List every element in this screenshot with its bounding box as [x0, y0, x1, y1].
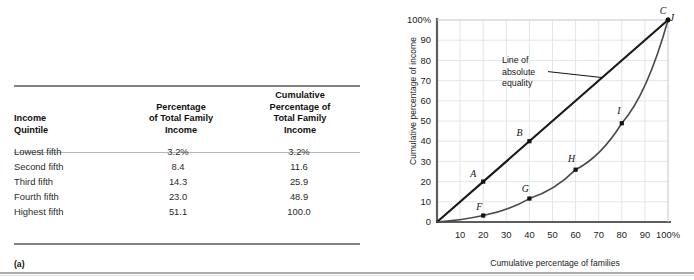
point-label-G: G: [522, 183, 529, 194]
table-row: Fourth fifth 23.0 48.9: [14, 190, 360, 205]
y-tick-label: 0: [426, 216, 431, 227]
x-tick-label: 60: [570, 229, 580, 240]
y-axis-title: Cumulative percentage of income: [408, 16, 418, 186]
data-point-marker: [527, 196, 531, 200]
column-header-income-quintile: Income Quintile: [14, 90, 122, 139]
annotation-line: absolute: [502, 67, 535, 77]
y-tick-label: 80: [421, 55, 431, 66]
table-body: Lowest fifth 3.2% 3.2% Second fifth 8.4 …: [14, 139, 360, 219]
chart-tick-labels: 0102030405060708090100%10203040506070809…: [407, 14, 680, 240]
cell-percentage: 8.4: [122, 160, 240, 175]
income-distribution-table: Income Quintile Percentage of Total Fami…: [14, 90, 360, 219]
x-tick-label: 90: [640, 229, 650, 240]
x-tick-label: 70: [593, 229, 603, 240]
x-tick-label: 40: [524, 229, 534, 240]
header-line: Percentage: [122, 102, 240, 114]
point-label-A: A: [469, 168, 477, 179]
cell-quintile: Highest fifth: [14, 205, 122, 220]
y-tick-label: 50: [421, 115, 431, 126]
panel-label-a: (a): [14, 259, 25, 269]
point-label-I: I: [616, 105, 621, 116]
cell-percentage: 14.3: [122, 175, 240, 190]
x-tick-label: 80: [617, 229, 627, 240]
data-point-marker: [481, 180, 485, 184]
page-divider-shadow: [0, 275, 694, 276]
header-line: Quintile: [14, 125, 122, 137]
annotation-line: Line of: [502, 55, 529, 65]
cell-percentage: 23.0: [122, 190, 240, 205]
data-point-marker: [620, 121, 624, 125]
y-tick-label: 10: [421, 196, 431, 207]
header-line: Income: [240, 125, 360, 137]
table-row: Lowest fifth 3.2% 3.2%: [14, 139, 360, 160]
cell-percentage: 3.2%: [122, 139, 240, 160]
panel-a-table-container: Income Quintile Percentage of Total Fami…: [0, 0, 385, 280]
header-line: Cumulative: [240, 90, 360, 102]
column-header-cumulative-percentage-of-total-family-income: Cumulative Percentage of Total Family In…: [240, 90, 360, 139]
data-point-marker: [574, 168, 578, 172]
point-label-B: B: [516, 127, 522, 138]
cell-cumulative: 3.2%: [240, 139, 360, 160]
panel-b-chart-container: 0102030405060708090100%10203040506070809…: [390, 0, 694, 280]
cell-cumulative: 11.6: [240, 160, 360, 175]
y-tick-label: 30: [421, 156, 431, 167]
point-label-F: F: [475, 201, 483, 212]
x-axis-title: Cumulative percentage of families: [430, 258, 680, 268]
y-tick-label: 90: [421, 34, 431, 45]
lorenz-curve-chart: 0102030405060708090100%10203040506070809…: [390, 0, 694, 280]
data-point-marker: [481, 213, 485, 217]
page-divider: [0, 272, 694, 274]
cell-quintile: Fourth fifth: [14, 190, 122, 205]
table-row: Third fifth 14.3 25.9: [14, 175, 360, 190]
cell-quintile: Lowest fifth: [14, 139, 122, 160]
x-tick-label: 10: [455, 229, 465, 240]
chart-series: ABCFGHIJ: [437, 5, 675, 222]
annotation-leader-line: [548, 72, 602, 78]
y-tick-label: 70: [421, 75, 431, 86]
y-tick-label: 20: [421, 176, 431, 187]
y-tick-label: 60: [421, 95, 431, 106]
table-bottom-rule: [14, 243, 360, 245]
table-header-row: Income Quintile Percentage of Total Fami…: [14, 90, 360, 139]
x-tick-label: 20: [478, 229, 488, 240]
point-label-C: C: [660, 5, 667, 16]
cell-cumulative: 25.9: [240, 175, 360, 190]
table-head: Income Quintile Percentage of Total Fami…: [14, 90, 360, 139]
column-header-percentage-of-total-family-income: Percentage of Total Family Income: [122, 90, 240, 139]
table-top-rule: [14, 85, 360, 87]
header-line: Income: [122, 125, 240, 137]
y-tick-label: 40: [421, 135, 431, 146]
cell-cumulative: 48.9: [240, 190, 360, 205]
header-line: Total Family: [240, 113, 360, 125]
data-point-marker: [527, 139, 531, 143]
table-row: Highest fifth 51.1 100.0: [14, 205, 360, 220]
header-line: Income: [14, 113, 122, 125]
header-line: of Total Family: [122, 113, 240, 125]
point-label-J: J: [670, 12, 675, 23]
cell-quintile: Second fifth: [14, 160, 122, 175]
x-tick-label: 50: [547, 229, 557, 240]
annotation-line: equality: [502, 78, 533, 88]
point-label-H: H: [567, 153, 576, 164]
x-tick-label: 30: [501, 229, 511, 240]
cell-percentage: 51.1: [122, 205, 240, 220]
x-tick-label: 100%: [656, 229, 680, 240]
table-row: Second fifth 8.4 11.6: [14, 160, 360, 175]
cell-quintile: Third fifth: [14, 175, 122, 190]
header-line: Percentage of: [240, 102, 360, 114]
cell-cumulative: 100.0: [240, 205, 360, 220]
